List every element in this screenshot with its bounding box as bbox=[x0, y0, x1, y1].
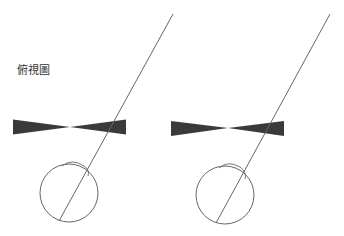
eye-circle-left bbox=[40, 164, 98, 222]
panel-left bbox=[13, 14, 173, 222]
bowtie-shape-left-right-half bbox=[70, 120, 126, 135]
sight-line-right bbox=[216, 14, 330, 223]
diagram-canvas bbox=[0, 0, 344, 236]
bowtie-shape-left bbox=[13, 120, 70, 135]
bowtie-shape-right-right-half bbox=[228, 121, 284, 136]
sight-line-left bbox=[59, 14, 173, 221]
bowtie-shape-right bbox=[171, 121, 228, 136]
panel-right bbox=[171, 14, 330, 224]
